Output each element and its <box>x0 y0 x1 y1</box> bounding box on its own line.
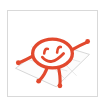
figure-foot-right-icon <box>57 83 62 88</box>
figure-hand-left-icon <box>16 60 21 65</box>
illustration-canvas <box>8 11 97 96</box>
illustration-svg <box>8 11 97 96</box>
figure-foot-left-icon <box>36 79 41 84</box>
figure-arm-right <box>72 42 87 49</box>
screenshot-root: Smiley figure on ground plane <box>0 0 106 106</box>
thumbnail-card[interactable]: Smiley figure on ground plane <box>7 10 98 97</box>
figure-hand-right-icon <box>85 39 90 44</box>
figure-head <box>33 39 73 68</box>
